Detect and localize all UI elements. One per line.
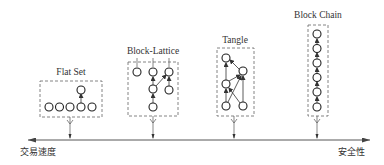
node-circle [165, 68, 173, 76]
node-circle [239, 67, 247, 75]
node-circle [149, 68, 157, 76]
structure-title: Flat Set [56, 67, 86, 77]
diagram-canvas: 交易速度 安全性 Flat Set Block-Lattice [0, 0, 384, 165]
node-circle [77, 103, 85, 111]
node-circle [313, 45, 321, 53]
node-circle [149, 85, 157, 93]
drop-arrow [67, 117, 73, 139]
node-circle [56, 103, 64, 111]
node-circle [222, 54, 230, 62]
axis-label-right: 安全性 [338, 146, 365, 157]
node-circle [133, 68, 141, 76]
node-circle [313, 88, 321, 96]
structure-block-chain: Block Chain [294, 10, 342, 139]
drop-arrow [231, 116, 237, 139]
node-circle [313, 103, 321, 111]
edge-arrow [229, 88, 240, 103]
node-circle [222, 102, 230, 110]
spectrum-axis: 交易速度 安全性 [20, 140, 370, 157]
node-circle [222, 80, 230, 88]
drop-arrow [150, 116, 156, 139]
edge-arrow [156, 75, 166, 86]
node-circle [66, 103, 74, 111]
structure-title: Tangle [222, 35, 248, 45]
edge-arrow [229, 75, 240, 81]
node-circle [313, 30, 321, 38]
structure-title: Block Chain [294, 10, 342, 20]
node-circle [88, 103, 96, 111]
structure-flat-set: Flat Set [40, 67, 102, 139]
node-circle [45, 103, 53, 111]
node-circle [165, 86, 173, 94]
node-circle [77, 86, 85, 94]
node-circle [313, 74, 321, 82]
structure-block-lattice: Block-Lattice [127, 46, 179, 139]
structure-box [40, 81, 102, 117]
node-circle [313, 59, 321, 67]
axis-label-left: 交易速度 [20, 146, 56, 157]
drop-arrow [314, 116, 320, 139]
edge-arrow [230, 60, 239, 69]
node-circle [239, 102, 247, 110]
structure-title: Block-Lattice [127, 46, 179, 56]
structure-tangle: Tangle [217, 35, 254, 139]
node-circle [149, 103, 157, 111]
structure-box [308, 25, 328, 116]
